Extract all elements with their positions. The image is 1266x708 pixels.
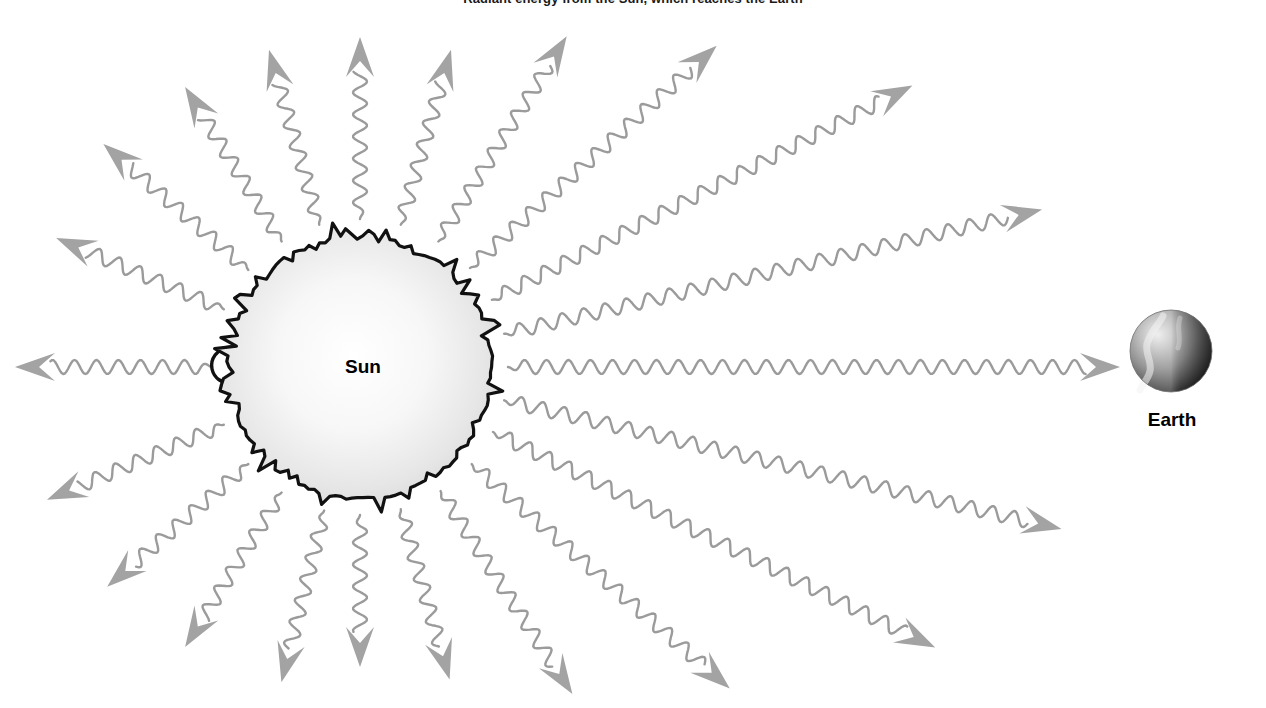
- ray-e-wave: [508, 360, 1086, 374]
- ray-e-arrowhead: [1080, 353, 1120, 381]
- ray-nnw-arrowhead: [267, 50, 294, 92]
- ray-se-2-arrowhead: [690, 652, 729, 689]
- ray-se-2-wave: [472, 464, 706, 664]
- ray-se-1-arrowhead: [539, 653, 573, 694]
- ray-wsw-wave: [78, 425, 224, 490]
- ray-s-wave: [353, 515, 367, 632]
- ray-se-1-wave: [441, 491, 553, 667]
- ray-sse-arrowhead: [425, 637, 452, 679]
- radiation-rays-group: [15, 36, 1120, 694]
- ray-sw-1-wave: [136, 464, 248, 567]
- ray-ene-1-wave: [504, 214, 1008, 335]
- ray-ese-2-wave: [504, 397, 1027, 527]
- ray-n-wave: [353, 72, 367, 219]
- earth-label: Earth: [1112, 409, 1232, 431]
- ray-nne-wave: [399, 81, 446, 224]
- ray-nnw-wave: [272, 85, 320, 225]
- radiation-diagram: [0, 0, 1266, 708]
- ray-w-wave: [50, 360, 212, 374]
- sun-label: Sun: [300, 356, 426, 378]
- ray-wnw-wave: [86, 249, 224, 309]
- ray-nw-1-arrowhead: [185, 87, 218, 128]
- ray-nw-2-arrowhead: [103, 144, 142, 181]
- diagram-canvas: Radiant energy from the Sun, which reach…: [0, 0, 1266, 708]
- ray-ese-1-arrowhead: [893, 617, 935, 647]
- ray-s-arrowhead: [346, 627, 374, 667]
- ray-ene-1-arrowhead: [1000, 205, 1042, 232]
- ray-ssw-wave: [284, 511, 327, 649]
- earth-body: [1130, 310, 1212, 392]
- ray-n-arrowhead: [346, 37, 374, 77]
- ray-ne-2-wave: [438, 66, 552, 241]
- ray-ene-2-wave: [492, 96, 879, 300]
- earth-terminator-shading: [1130, 310, 1212, 392]
- ray-ne-2-arrowhead: [534, 36, 567, 77]
- ray-sw-2-wave: [203, 493, 282, 621]
- ray-sse-wave: [400, 509, 443, 646]
- ray-nw-1-wave: [198, 120, 282, 242]
- ray-nw-2-wave: [131, 163, 248, 270]
- ray-ne-1-wave: [470, 68, 692, 268]
- ray-sw-2-arrowhead: [185, 606, 218, 647]
- ray-ssw-arrowhead: [278, 640, 305, 682]
- ray-ese-2-arrowhead: [1019, 506, 1061, 533]
- ray-ene-2-arrowhead: [870, 86, 912, 117]
- ray-w-arrowhead: [15, 353, 55, 381]
